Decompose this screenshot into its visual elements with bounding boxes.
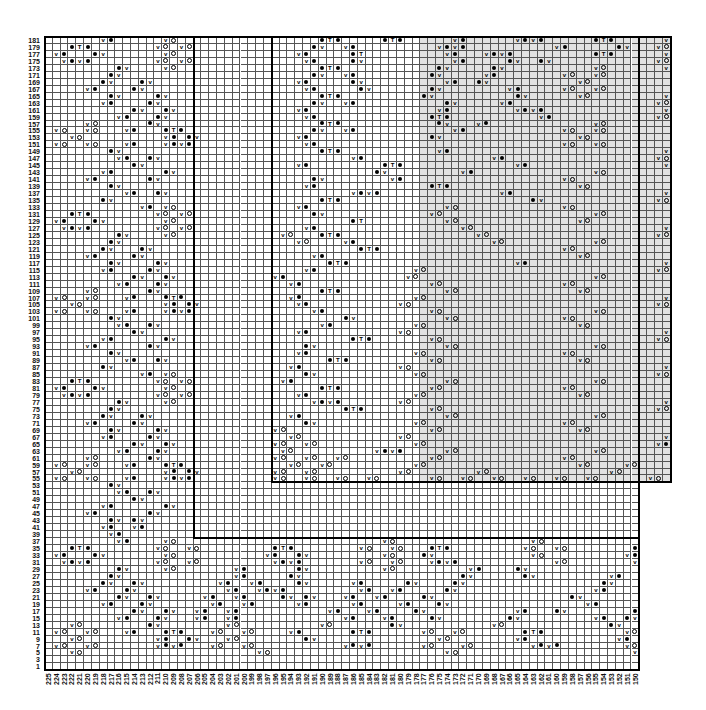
grid-cell [350, 114, 358, 121]
grid-cell [592, 183, 600, 190]
grid-cell [170, 663, 178, 670]
grid-cell [194, 225, 202, 232]
grid-cell [467, 86, 475, 93]
grid-cell [342, 656, 350, 663]
knit-v-symbol: v [295, 79, 303, 86]
grid-cell [459, 371, 467, 378]
grid-cell [68, 496, 76, 503]
grid-cell [373, 253, 381, 260]
filled-dot-icon [92, 86, 100, 93]
knit-v-symbol: v [413, 295, 421, 302]
t-symbol: T [327, 288, 335, 295]
grid-cell [61, 107, 69, 114]
grid-cell [147, 107, 155, 114]
grid-cell [663, 357, 671, 364]
grid-cell [76, 406, 84, 413]
grid-cell [100, 643, 108, 650]
grid-cell [483, 462, 491, 469]
yarn-over-circle-icon [459, 629, 467, 636]
grid-cell [139, 385, 147, 392]
grid-cell [178, 622, 186, 629]
grid-cell [459, 587, 467, 594]
grid-cell [358, 148, 366, 155]
grid-cell [147, 253, 155, 260]
grid-cell [569, 545, 577, 552]
knit-v-symbol: v [334, 455, 342, 462]
grid-cell [444, 420, 452, 427]
grid-cell [459, 601, 467, 608]
grid-cell [452, 566, 460, 573]
grid-cell [76, 127, 84, 134]
grid-cell [561, 371, 569, 378]
grid-cell [139, 197, 147, 204]
grid-cell [608, 232, 616, 239]
grid-cell [420, 448, 428, 455]
grid-cell [68, 65, 76, 72]
filled-dot-icon [108, 267, 116, 274]
grid-cell [624, 65, 632, 72]
grid-cell [280, 51, 288, 58]
grid-cell [295, 608, 303, 615]
knit-v-symbol: v [522, 475, 530, 482]
grid-cell [499, 448, 507, 455]
grid-cell [608, 239, 616, 246]
grid-cell [522, 378, 530, 385]
grid-cell [303, 72, 311, 79]
knit-v-symbol: v [115, 148, 123, 155]
grid-cell [483, 211, 491, 218]
yarn-over-circle-icon [569, 141, 577, 148]
knit-v-symbol: v [311, 636, 319, 643]
grid-cell [209, 37, 217, 44]
grid-cell [632, 58, 640, 65]
grid-cell [491, 301, 499, 308]
grid-cell [162, 573, 170, 580]
grid-cell [436, 364, 444, 371]
grid-cell [569, 322, 577, 329]
grid-cell [366, 253, 374, 260]
grid-cell [624, 176, 632, 183]
grid-cell [373, 51, 381, 58]
grid-cell [84, 183, 92, 190]
grid-cell [154, 601, 162, 608]
grid-cell [248, 260, 256, 267]
grid-cell [256, 148, 264, 155]
grid-cell [499, 322, 507, 329]
grid-cell [233, 482, 241, 489]
grid-cell [616, 58, 624, 65]
grid-cell [545, 197, 553, 204]
grid-cell [444, 434, 452, 441]
grid-cell [639, 127, 647, 134]
grid-cell [545, 65, 553, 72]
row-label: 145 [0, 162, 40, 169]
grid-cell [389, 573, 397, 580]
knit-v-symbol: v [585, 601, 593, 608]
grid-cell [585, 587, 593, 594]
grid-cell [334, 253, 342, 260]
filled-dot-icon [115, 594, 123, 601]
grid-cell [84, 482, 92, 489]
grid-cell [467, 496, 475, 503]
grid-cell [561, 636, 569, 643]
grid-cell [436, 253, 444, 260]
grid-cell [92, 190, 100, 197]
grid-cell [600, 281, 608, 288]
knit-v-symbol: v [444, 65, 452, 72]
grid-cell [452, 656, 460, 663]
grid-cell [561, 482, 569, 489]
grid-cell [225, 107, 233, 114]
grid-cell [624, 343, 632, 350]
grid-cell [600, 267, 608, 274]
grid-cell [272, 399, 280, 406]
grid-cell [225, 559, 233, 566]
grid-cell [647, 364, 655, 371]
grid-cell [256, 608, 264, 615]
grid-cell [170, 649, 178, 656]
grid-cell [624, 441, 632, 448]
grid-cell [491, 37, 499, 44]
grid-cell [381, 190, 389, 197]
grid-cell [467, 538, 475, 545]
grid-cell [538, 100, 546, 107]
grid-cell [608, 643, 616, 650]
knit-v-symbol: v [162, 475, 170, 482]
grid-cell [639, 336, 647, 343]
